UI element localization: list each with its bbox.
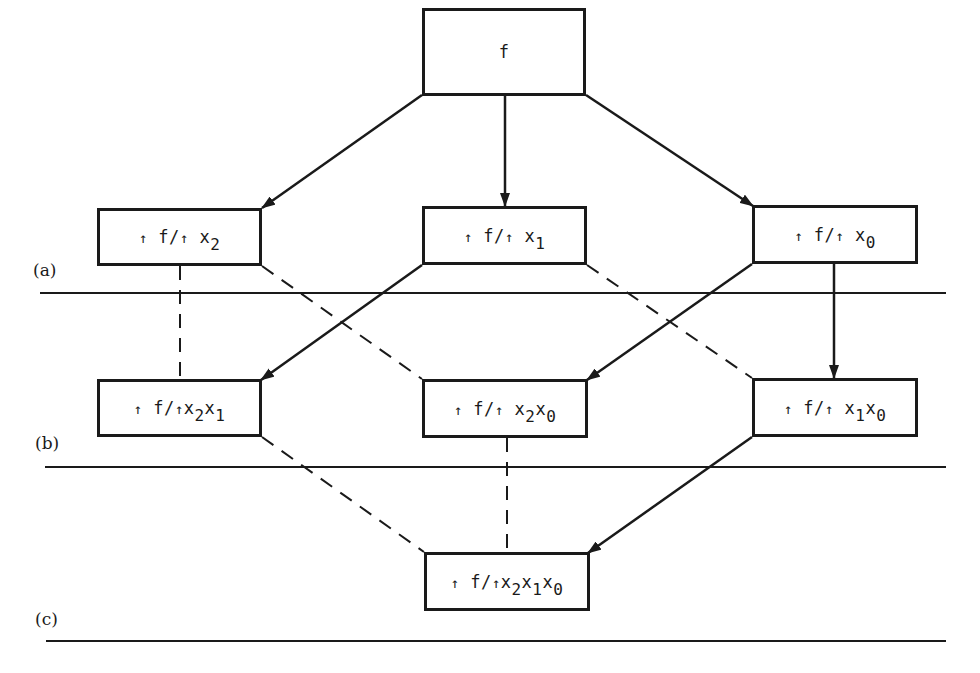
node-label: ↑ f/↑x2x1x0 xyxy=(451,572,564,592)
node-label: ↑ f/↑x2x1 xyxy=(134,398,226,418)
node-df_dx2x1x0: ↑ f/↑x2x1x0 xyxy=(424,552,590,611)
level-label: (c) xyxy=(35,609,58,629)
up-arrow-icon: ↑ xyxy=(495,402,504,418)
up-arrow-icon: ↑ xyxy=(180,230,189,246)
dashed-link xyxy=(262,437,424,552)
node-df_dx2: ↑ f/↑ x2 xyxy=(97,208,262,266)
solid-arrows xyxy=(261,95,834,553)
node-df_dx2x0: ↑ f/↑ x2x0 xyxy=(422,379,588,438)
node-df_dx1: ↑ f/↑ x1 xyxy=(422,206,587,265)
node-label: ↑ f/↑ x2 xyxy=(139,227,221,247)
up-arrow-icon: ↑ xyxy=(492,575,501,591)
node-label: ↑ f/↑ x0 xyxy=(794,225,876,245)
node-df_dx0: ↑ f/↑ x0 xyxy=(752,205,918,264)
node-label: ↑ f/↑ x1x0 xyxy=(784,398,887,418)
arrow-edge xyxy=(262,95,422,208)
up-arrow-icon: ↑ xyxy=(825,401,834,417)
up-arrow-icon: ↑ xyxy=(139,230,148,246)
up-arrow-icon: ↑ xyxy=(784,401,793,417)
up-arrow-icon: ↑ xyxy=(464,229,473,245)
node-label: ↑ f/↑ x2x0 xyxy=(454,399,557,419)
up-arrow-icon: ↑ xyxy=(454,402,463,418)
node-df_dx2x1: ↑ f/↑x2x1 xyxy=(97,379,262,437)
up-arrow-icon: ↑ xyxy=(794,228,803,244)
up-arrow-icon: ↑ xyxy=(134,401,143,417)
level-label: (a) xyxy=(33,260,56,280)
up-arrow-icon: ↑ xyxy=(505,229,514,245)
up-arrow-icon: ↑ xyxy=(175,401,184,417)
node-label: f xyxy=(499,42,510,62)
arrow-edge xyxy=(588,437,752,553)
up-arrow-icon: ↑ xyxy=(451,575,460,591)
node-f: f xyxy=(422,8,586,96)
up-arrow-icon: ↑ xyxy=(835,228,844,244)
arrow-edge xyxy=(586,95,753,206)
node-label: ↑ f/↑ x1 xyxy=(464,226,546,246)
level-label: (b) xyxy=(35,433,59,453)
node-df_dx1x0: ↑ f/↑ x1x0 xyxy=(752,378,918,437)
